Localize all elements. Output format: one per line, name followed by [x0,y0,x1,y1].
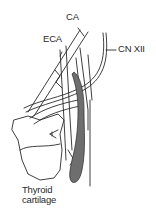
label-eca: ECA [43,34,62,44]
shaded-structure [70,72,85,183]
label-thyroid-cartilage: Thyroid cartilage [22,185,56,205]
label-cn-xii: CN XII [118,44,145,54]
anatomy-diagram [0,0,156,213]
thyroid-cartilage [12,114,64,180]
branch-lower [34,106,80,124]
label-thyroid-line2: cartilage [22,195,56,205]
label-ca: CA [66,12,79,22]
cranial-nerve-xii [24,33,116,112]
